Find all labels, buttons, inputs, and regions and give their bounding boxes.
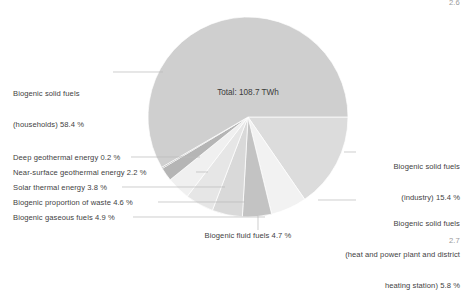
label-biogenic-solid-fuels-chp: Biogenic solid fuels (heat and power pla… — [310, 198, 460, 294]
label-chp-line3: heating station) 5.8 % — [310, 281, 460, 291]
label-biogenic-proportion-of-waste: Biogenic proportion of waste 4.6 % — [13, 198, 193, 208]
label-chp-line1: Biogenic solid fuels — [310, 219, 460, 229]
label-households-line2: (households) 58.4 % — [13, 120, 143, 130]
corner-number-bottom-right: 2.7 — [449, 236, 460, 245]
label-chp-line2: (heat and power plant and district — [310, 250, 460, 260]
label-biogenic-gaseous-fuels: Biogenic gaseous fuels 4.9 % — [13, 213, 193, 223]
label-solar-thermal-energy: Solar thermal energy 3.8 % — [13, 183, 193, 193]
pie-center-total: Total: 108.7 TWh — [178, 88, 318, 97]
label-households-line1: Biogenic solid fuels — [13, 89, 143, 99]
label-deep-geothermal-energy: Deep geothermal energy 0.2 % — [13, 153, 193, 163]
label-biogenic-fluid-fuels: Biogenic fluid fuels 4.7 % — [178, 231, 318, 241]
corner-number-top-right: 2.6 — [449, 0, 460, 7]
label-industry-line1: Biogenic solid fuels — [358, 162, 460, 172]
label-near-surface-geothermal-energy: Near-surface geothermal energy 2.2 % — [13, 168, 203, 178]
label-biogenic-solid-fuels-households: Biogenic solid fuels (households) 58.4 % — [13, 68, 143, 151]
